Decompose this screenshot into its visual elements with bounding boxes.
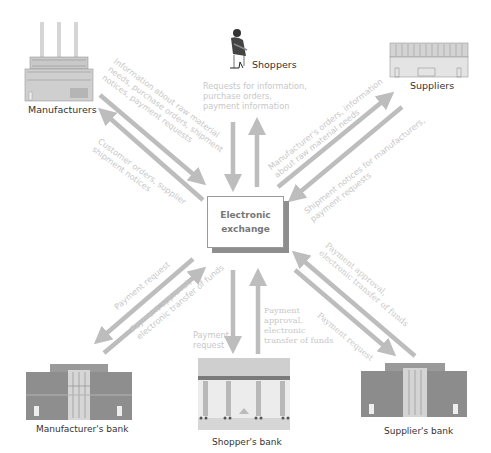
electronic-exchange-box: Electronicexchange xyxy=(207,196,284,248)
shoppers-label: Shoppers xyxy=(252,59,297,70)
manufacturers-bank-label: Manufacturer's bank xyxy=(36,424,128,434)
hub-label-line2: exchange xyxy=(221,224,270,234)
suppliers-bank-label: Supplier's bank xyxy=(384,426,453,436)
suppliers-bank-icon xyxy=(361,363,467,417)
warehouse-icon xyxy=(390,43,468,77)
flow-label-shoppers: Requests for information, purchase order… xyxy=(203,81,307,111)
manufacturers-bank-icon xyxy=(26,364,132,420)
flow-label-shoppers-bank-request: Payment request xyxy=(193,330,229,350)
shoppers-bank-icon xyxy=(198,358,290,430)
suppliers-label: Suppliers xyxy=(410,80,454,91)
shoppers-bank-label: Shopper's bank xyxy=(212,437,282,447)
factory-icon xyxy=(25,22,93,101)
manufacturers-label: Manufacturers xyxy=(28,104,97,115)
ecommerce-exchange-diagram: Electronicexchange Manufacturers Shopper… xyxy=(0,0,491,453)
hub-label-line1: Electronic xyxy=(220,210,270,220)
shopper-person-icon xyxy=(230,29,247,68)
